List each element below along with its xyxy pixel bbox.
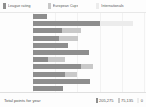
bar-segment[interactable] xyxy=(33,28,62,33)
square-swatch-icon xyxy=(137,98,139,103)
bar-row[interactable] xyxy=(33,28,144,33)
bar-segment[interactable] xyxy=(33,57,48,62)
bar-row[interactable] xyxy=(33,57,144,62)
bar-segment[interactable] xyxy=(33,43,68,48)
bar-segment[interactable] xyxy=(33,86,63,91)
bar-segment[interactable] xyxy=(33,79,90,84)
total-european-cups: 75,135 xyxy=(118,98,134,103)
chart-footer-totals: Total points for year 205,275 75,135 0 xyxy=(0,92,146,107)
bar-segment[interactable] xyxy=(33,50,89,55)
bar-segment[interactable] xyxy=(59,36,78,41)
chart-legend: League rating European Cups Internationa… xyxy=(0,0,146,13)
bar-row[interactable] xyxy=(33,21,144,26)
chart-plot-area xyxy=(0,13,146,92)
legend-item-label: Internationals xyxy=(101,4,123,9)
legend-item-label: League rating xyxy=(8,4,31,9)
square-swatch-icon xyxy=(118,98,120,103)
total-value: 75,135 xyxy=(121,98,133,103)
bar-segment[interactable] xyxy=(33,64,81,69)
legend-item-european-cups[interactable]: European Cups xyxy=(48,3,91,9)
bar-segment[interactable] xyxy=(48,57,65,62)
bar-segment[interactable] xyxy=(33,21,100,26)
legend-item-label: European Cups xyxy=(53,4,79,9)
square-swatch-icon xyxy=(96,98,98,103)
square-swatch-icon xyxy=(48,3,51,9)
bar-row[interactable] xyxy=(33,43,144,48)
bar-row[interactable] xyxy=(33,14,144,19)
bar-segment[interactable] xyxy=(33,36,59,41)
bar-row[interactable] xyxy=(33,72,144,77)
square-swatch-icon xyxy=(96,3,99,9)
bar-row[interactable] xyxy=(33,79,144,84)
bar-row[interactable] xyxy=(33,64,144,69)
bar-segment[interactable] xyxy=(81,64,93,69)
total-value: 0 xyxy=(141,98,143,103)
bar-segment[interactable] xyxy=(33,14,47,19)
legend-item-internationals[interactable]: Internationals xyxy=(96,3,138,9)
legend-item-league-rating[interactable]: League rating xyxy=(3,3,43,9)
bar-segment[interactable] xyxy=(62,28,81,33)
total-internationals: 0 xyxy=(137,98,143,103)
square-swatch-icon xyxy=(3,3,6,9)
bar-segment[interactable] xyxy=(100,21,133,26)
totals-group: 205,275 75,135 0 xyxy=(92,98,143,103)
bar-row[interactable] xyxy=(33,36,144,41)
total-league-rating: 205,275 xyxy=(96,98,114,103)
bar-row[interactable] xyxy=(33,86,144,91)
bar-segment[interactable] xyxy=(33,72,65,77)
stacked-bar-chart-panel: League rating European Cups Internationa… xyxy=(0,0,146,107)
bar-row[interactable] xyxy=(33,50,144,55)
chart-bar-rows xyxy=(0,14,146,91)
total-value: 205,275 xyxy=(99,98,113,103)
bar-segment[interactable] xyxy=(65,72,77,77)
totals-label: Total points for year xyxy=(4,98,41,103)
